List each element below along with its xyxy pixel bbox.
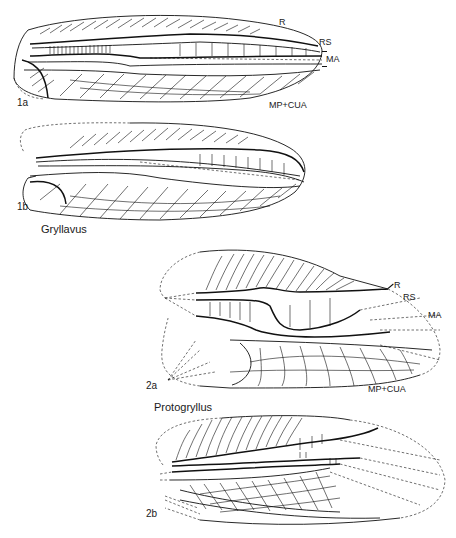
- panel-label-2b: 2b: [146, 509, 157, 519]
- wing-2b-crossveins: [176, 416, 340, 512]
- wing-drawing-2b: [0, 0, 456, 538]
